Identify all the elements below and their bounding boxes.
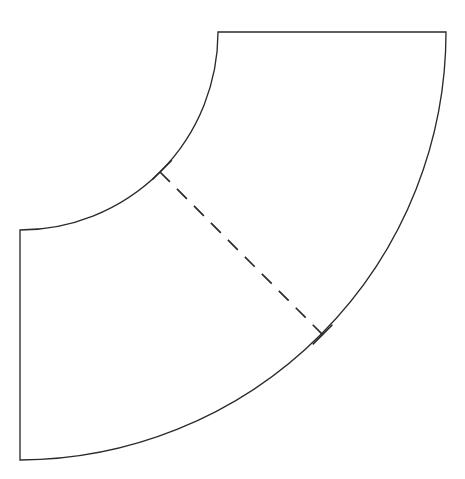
- geometry-diagram-svg: [0, 0, 465, 479]
- tick-inner-endpoint: [152, 160, 172, 180]
- dashed-radial-line: [160, 172, 323, 335]
- figure-canvas: [0, 0, 465, 479]
